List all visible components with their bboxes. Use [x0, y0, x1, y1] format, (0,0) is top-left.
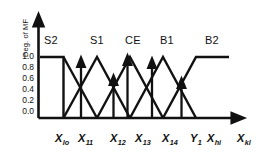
x-tick-sub-x13: 13 — [143, 138, 151, 147]
y-tick-label-6: 0.0 — [14, 107, 34, 116]
x-tick-label-y1: Y1 — [190, 133, 201, 144]
x-tick-base-x14: X — [162, 132, 169, 144]
x-tick-base-x13: X — [135, 132, 142, 144]
x-tick-label-x12: X12 — [110, 133, 125, 144]
membership-curve-s1 — [64, 57, 131, 118]
x-tick-sub-x14: 14 — [170, 138, 178, 147]
set-label-b2: B2 — [205, 35, 219, 46]
x-tick-base-x12: X — [110, 132, 117, 144]
x-axis-title: Xkl — [237, 133, 250, 144]
x-tick-base-y1: Y — [190, 132, 197, 144]
membership-curve-s2 — [40, 57, 64, 118]
x-tick-sub-xhi: hi — [215, 138, 221, 147]
x-tick-label-xhi: Xhi — [207, 133, 221, 144]
set-label-b1: B1 — [160, 35, 174, 46]
x-axis-title-base: X — [237, 132, 244, 144]
x-tick-label-xlo: Xlo — [55, 133, 69, 144]
set-label-s1: S1 — [90, 35, 104, 46]
membership-curve-b2 — [163, 57, 229, 118]
fuzzy-membership-chart: Deg. of MF 1.0 0.8 0.6 0.4 0.2 0.0 S2 S1… — [0, 0, 265, 157]
x-tick-label-x11: X11 — [78, 133, 93, 144]
set-label-ce: CE — [125, 35, 141, 46]
x-tick-label-x13: X13 — [135, 133, 150, 144]
x-tick-base-xhi: X — [207, 132, 214, 144]
x-tick-label-x14: X14 — [162, 133, 177, 144]
set-label-s2: S2 — [44, 35, 58, 46]
chart-plot-area — [0, 0, 265, 157]
x-axis-title-sub: kl — [245, 138, 251, 147]
y-tick-label-5: 0.2 — [14, 96, 34, 105]
x-tick-sub-x11: 11 — [86, 138, 93, 147]
membership-curve-b1 — [130, 57, 196, 118]
x-tick-base-x11: X — [78, 132, 85, 144]
y-tick-label-3: 0.6 — [14, 74, 34, 83]
x-tick-base-xlo: X — [55, 132, 62, 144]
y-tick-label-2: 0.8 — [14, 63, 34, 72]
y-tick-label-1: 1.0 — [14, 52, 34, 61]
x-tick-sub-xlo: lo — [63, 138, 69, 147]
x-tick-sub-y1: 1 — [198, 138, 202, 147]
y-tick-label-4: 0.4 — [14, 85, 34, 94]
x-tick-sub-x12: 12 — [118, 138, 126, 147]
